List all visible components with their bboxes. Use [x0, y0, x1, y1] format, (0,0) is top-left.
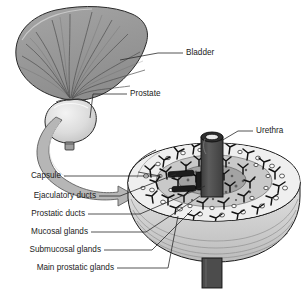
urethra-tube — [201, 132, 223, 197]
leader-urethra — [221, 131, 253, 141]
label-main-prostatic-glands: Main prostatic glands — [37, 263, 114, 272]
label-prostatic-ducts: Prostatic ducts — [31, 209, 85, 218]
label-bladder: Bladder — [186, 48, 214, 57]
prostate-cross-section — [128, 132, 300, 288]
label-capsule: Capsule — [31, 171, 61, 180]
bladder-organ — [16, 7, 148, 101]
label-urethra: Urethra — [256, 126, 284, 135]
label-ejaculatory-ducts: Ejaculatory ducts — [34, 191, 96, 200]
urethra-exit — [202, 258, 222, 288]
anatomy-figure: Bladder Prostate Urethra Capsule Ejacula… — [0, 0, 308, 307]
label-submucosal-glands: Submucosal glands — [30, 245, 101, 254]
urethra-stub — [65, 142, 74, 150]
label-prostate: Prostate — [130, 89, 161, 98]
label-mucosal-glands: Mucosal glands — [31, 227, 88, 236]
